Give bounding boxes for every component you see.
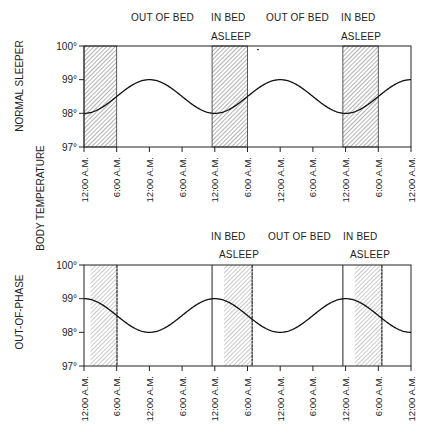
x-tick-label: 12:00 A.M. bbox=[79, 157, 90, 202]
asleep-region bbox=[343, 46, 378, 147]
asleep-region bbox=[84, 46, 117, 147]
x-tick-label: 6:00 A.M. bbox=[111, 157, 122, 197]
panel-label-normal-sleeper: NORMAL SLEEPER bbox=[14, 40, 25, 131]
x-tick-label: 6:00 A.M. bbox=[177, 157, 188, 197]
y-tick-label: 99° bbox=[62, 293, 77, 304]
asleep-label: ASLEEP bbox=[219, 249, 259, 260]
x-tick-label: 12:00 A.M. bbox=[340, 376, 351, 421]
y-tick-label: 98° bbox=[62, 327, 77, 338]
x-tick-label: 12:00 A.M. bbox=[209, 376, 220, 421]
in-bed-label: IN BED bbox=[211, 231, 246, 242]
x-tick-label: 6:00 A.M. bbox=[307, 376, 318, 416]
x-tick-label: 12:00 A.M. bbox=[406, 376, 417, 421]
asleep-label: ASLEEP bbox=[350, 249, 390, 260]
x-tick-label: 12:00 A.M. bbox=[209, 157, 220, 202]
y-tick-label: 99° bbox=[62, 74, 77, 85]
y-tick-label: 97° bbox=[62, 142, 77, 153]
y-tick-label: 97° bbox=[62, 361, 77, 372]
x-tick-label: 6:00 A.M. bbox=[307, 157, 318, 197]
y-tick-label: 98° bbox=[62, 108, 77, 119]
x-tick-label: 12:00 A.M. bbox=[406, 157, 417, 202]
asleep-region bbox=[212, 46, 247, 147]
x-tick-label: 12:00 A.M. bbox=[275, 157, 286, 202]
x-tick-label: 12:00 A.M. bbox=[79, 376, 90, 421]
y-axis-title: BODY TEMPERATURE bbox=[35, 145, 46, 251]
x-tick-label: 12:00 A.M. bbox=[275, 376, 286, 421]
asleep-region bbox=[224, 265, 253, 366]
body-temperature-chart: NORMAL SLEEPER BODY TEMPERATURE OUT-OF-P… bbox=[0, 0, 431, 447]
x-tick-label: 6:00 A.M. bbox=[373, 157, 384, 197]
x-tick-label: 6:00 A.M. bbox=[242, 157, 253, 197]
speck-mark bbox=[257, 49, 259, 50]
y-tick-label: 100° bbox=[56, 41, 77, 52]
x-tick-label: 6:00 A.M. bbox=[111, 376, 122, 416]
out-of-bed-label: OUT OF BED bbox=[268, 231, 331, 242]
asleep-label: ASLEEP bbox=[341, 31, 381, 42]
panel-normal-sleeper: 97°98°99°100°12:00 A.M.6:00 A.M.12:00 A.… bbox=[56, 12, 416, 202]
x-tick-label: 12:00 A.M. bbox=[144, 157, 155, 202]
x-tick-label: 12:00 A.M. bbox=[340, 157, 351, 202]
x-tick-label: 6:00 A.M. bbox=[177, 376, 188, 416]
out-of-bed-label: OUT OF BED bbox=[266, 12, 329, 23]
x-tick-label: 6:00 A.M. bbox=[242, 376, 253, 416]
x-tick-label: 12:00 A.M. bbox=[144, 376, 155, 421]
out-of-bed-label: OUT OF BED bbox=[131, 12, 194, 23]
asleep-label: ASLEEP bbox=[211, 31, 251, 42]
x-tick-label: 6:00 A.M. bbox=[373, 376, 384, 416]
panel-out-of-phase: 97°98°99°100°12:00 A.M.6:00 A.M.12:00 A.… bbox=[56, 231, 416, 421]
in-bed-label: IN BED bbox=[341, 12, 376, 23]
y-tick-label: 100° bbox=[56, 260, 77, 271]
asleep-region bbox=[91, 265, 118, 366]
panel-label-out-of-phase: OUT-OF-PHASE bbox=[14, 274, 25, 349]
in-bed-label: IN BED bbox=[343, 231, 378, 242]
in-bed-label: IN BED bbox=[211, 12, 246, 23]
